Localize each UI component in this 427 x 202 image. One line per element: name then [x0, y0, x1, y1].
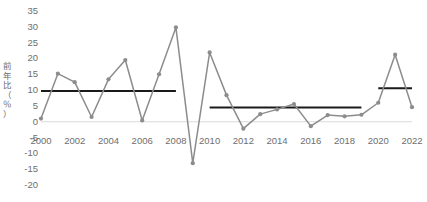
data-point-marker: [326, 113, 330, 117]
data-point-marker: [224, 93, 228, 97]
data-point-marker: [309, 124, 313, 128]
data-point-marker: [157, 72, 161, 76]
data-point-marker: [393, 53, 397, 57]
y-tick-label: 30: [8, 22, 38, 32]
plot-area: [41, 11, 412, 185]
y-tick-label: -15: [8, 164, 38, 174]
y-tick-label: 15: [8, 69, 38, 79]
y-tick-label: 5: [8, 101, 38, 111]
y-tick-label: -10: [8, 148, 38, 158]
y-tick-label: 10: [8, 85, 38, 95]
y-tick-label: 0: [8, 117, 38, 127]
data-point-marker: [241, 127, 245, 131]
data-point-marker: [174, 25, 178, 29]
y-tick-label: 25: [8, 38, 38, 48]
y-tick-label: 20: [8, 53, 38, 63]
data-point-marker: [191, 161, 195, 165]
data-point-marker: [359, 113, 363, 117]
data-point-marker: [140, 118, 144, 122]
data-point-marker: [39, 116, 43, 120]
data-point-marker: [275, 107, 279, 111]
data-point-marker: [208, 50, 212, 54]
y-tick-label: 35: [8, 6, 38, 16]
data-point-marker: [89, 115, 93, 119]
data-point-marker: [376, 101, 380, 105]
data-point-marker: [123, 58, 127, 62]
chart-title: [0, 0, 421, 1]
series-markers-group: [39, 25, 414, 165]
data-point-marker: [410, 105, 414, 109]
data-point-marker: [56, 72, 60, 76]
data-point-marker: [258, 112, 262, 116]
data-point-marker: [342, 114, 346, 118]
data-point-marker: [73, 80, 77, 84]
data-point-marker: [292, 102, 296, 106]
y-axis-tick-labels: 35302520151050-5-10-15-20: [8, 0, 38, 202]
data-point-marker: [106, 77, 110, 81]
y-tick-label: -20: [8, 180, 38, 190]
plot-svg: [41, 11, 412, 185]
